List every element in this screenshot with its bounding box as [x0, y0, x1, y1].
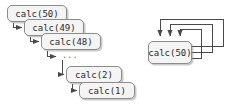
arrow-ellipsis-to-calc2	[62, 60, 64, 75]
arrow-calc49-to-calc48	[30, 37, 39, 42]
ellipsis-label: ...	[62, 52, 78, 60]
node-calc-1: calc(1)	[79, 82, 135, 99]
arrow-calc48-to-ellipsis	[47, 51, 56, 57]
node-calc-50-self: calc(50)	[148, 41, 192, 64]
node-calc-48: calc(48)	[41, 33, 101, 50]
arrow-calc50-to-calc49	[13, 23, 22, 28]
arrow-calc2-to-calc1	[72, 84, 77, 91]
recursion-diagram: calc(50) calc(49) calc(48) ... calc(2) c…	[0, 0, 231, 105]
node-calc-2: calc(2)	[66, 66, 122, 83]
